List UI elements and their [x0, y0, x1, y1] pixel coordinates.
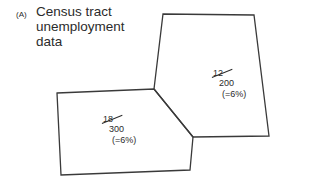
right-tract-denominator: 200	[219, 78, 234, 88]
right-tract-polygon	[154, 14, 269, 137]
left-tract-rate: (=6%)	[112, 135, 136, 145]
left-tract-denominator: 300	[109, 124, 124, 134]
right-tract-rate: (=6%)	[222, 89, 246, 99]
left-tract-polygon	[57, 89, 193, 175]
